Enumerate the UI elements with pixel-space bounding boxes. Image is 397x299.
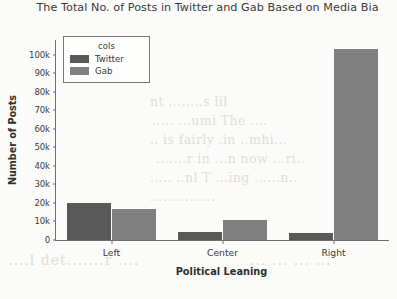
legend-title: cols xyxy=(70,41,143,51)
legend-label: Twitter xyxy=(95,54,124,64)
x-axis-label: Political Leaning xyxy=(55,266,388,277)
bar-left-gab xyxy=(112,209,156,240)
legend-swatch-twitter-icon xyxy=(70,55,89,63)
y-axis-tick-mark xyxy=(53,147,57,148)
x-axis-tick-mark xyxy=(111,240,112,244)
x-axis-tick-label: Center xyxy=(207,247,238,258)
legend-swatch-gab-icon xyxy=(70,67,89,75)
bar-center-gab xyxy=(223,220,267,240)
legend: cols TwitterGab xyxy=(63,36,150,83)
chart-title: The Total No. of Posts in Twitter and Ga… xyxy=(0,1,397,14)
y-axis-tick-mark xyxy=(53,240,57,241)
legend-item-twitter: Twitter xyxy=(70,54,143,64)
y-axis-tick-mark xyxy=(53,221,57,222)
legend-label: Gab xyxy=(95,66,112,76)
bar-right-gab xyxy=(334,49,378,240)
y-axis-tick-mark xyxy=(53,110,57,111)
bar-left-twitter xyxy=(67,203,111,240)
y-axis-label: Number of Posts xyxy=(7,95,18,185)
y-axis-tick-mark xyxy=(53,54,57,55)
y-axis-tick-mark xyxy=(53,165,57,166)
legend-item-gab: Gab xyxy=(70,66,143,76)
y-axis-tick-mark xyxy=(53,202,57,203)
bar-center-twitter xyxy=(178,232,222,240)
x-axis-tick-mark xyxy=(333,240,334,244)
x-axis-tick-mark xyxy=(222,240,223,244)
bar-right-twitter xyxy=(289,233,333,240)
y-axis-tick-mark xyxy=(53,128,57,129)
y-axis-tick-mark xyxy=(53,91,57,92)
x-axis-tick-label: Right xyxy=(321,247,345,258)
legend-entries: TwitterGab xyxy=(70,54,143,76)
y-axis-tick-mark xyxy=(53,73,57,74)
y-axis-tick-mark xyxy=(53,184,57,185)
x-axis-tick-label: Left xyxy=(103,247,120,258)
bar-chart-figure: The Total No. of Posts in Twitter and Ga… xyxy=(0,0,397,299)
